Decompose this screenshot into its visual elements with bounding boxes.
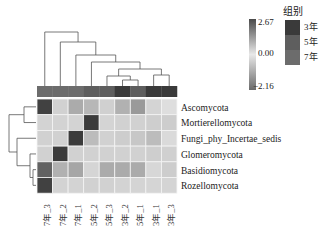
heatmap-cell bbox=[146, 162, 162, 178]
annotation-cell bbox=[146, 86, 162, 97]
heatmap-cell bbox=[68, 115, 84, 131]
heatmap-svg bbox=[0, 0, 322, 233]
dendrogram-branch bbox=[9, 115, 24, 152]
heatmap-chart bbox=[0, 0, 322, 233]
heatmap-cell bbox=[130, 115, 146, 131]
heatmap-cell bbox=[99, 146, 115, 162]
heatmap-cell bbox=[37, 130, 53, 146]
annotation-cell bbox=[53, 86, 69, 97]
heatmap-cell bbox=[84, 130, 100, 146]
heatmap-cell bbox=[68, 162, 84, 178]
legend-item-3yr: 3年 bbox=[304, 20, 318, 33]
heatmap-cell bbox=[68, 178, 84, 194]
col-label: 5年_2 bbox=[87, 204, 99, 226]
heatmap-cell bbox=[161, 178, 177, 194]
heatmap-cell bbox=[130, 146, 146, 162]
heatmap-cell bbox=[37, 99, 53, 115]
heatmap-cell bbox=[53, 162, 69, 178]
legend-swatch bbox=[285, 50, 300, 65]
heatmap-cell bbox=[99, 162, 115, 178]
heatmap-cell bbox=[99, 99, 115, 115]
heatmap-cell bbox=[53, 115, 69, 131]
heatmap-cell bbox=[53, 146, 69, 162]
colorscale-min: −2.16 bbox=[253, 81, 274, 91]
dendrogram-branch bbox=[45, 32, 78, 86]
annotation-cell bbox=[84, 86, 100, 97]
heatmap-cell bbox=[161, 146, 177, 162]
col-label: 5年_3 bbox=[102, 204, 114, 226]
heatmap-cell bbox=[99, 115, 115, 131]
row-label: Ascomycota bbox=[181, 102, 229, 114]
annotation-cell bbox=[68, 86, 84, 97]
legend-item-5yr: 5年 bbox=[304, 35, 318, 48]
heatmap-cell bbox=[146, 115, 162, 131]
col-label: 5年_1 bbox=[133, 204, 145, 226]
dendrogram-branch bbox=[33, 170, 36, 186]
heatmap-cell bbox=[68, 146, 84, 162]
dendrogram-branch bbox=[107, 76, 130, 86]
heatmap-cell bbox=[146, 130, 162, 146]
col-label: 7年_3 bbox=[40, 204, 52, 226]
heatmap-cell bbox=[130, 130, 146, 146]
annotation-cell bbox=[115, 86, 131, 97]
annotation-cell bbox=[37, 86, 53, 97]
heatmap-cell bbox=[161, 115, 177, 131]
heatmap-cell bbox=[68, 99, 84, 115]
row-label: Fungi_phy_Incertae_sedis bbox=[181, 133, 281, 145]
col-label: 7年_2 bbox=[56, 204, 68, 226]
annotation-cell bbox=[99, 86, 115, 97]
heatmap-cell bbox=[115, 162, 131, 178]
heatmap-cell bbox=[115, 146, 131, 162]
legend-title: 组别 bbox=[283, 3, 303, 18]
dendrogram-branch bbox=[154, 75, 170, 86]
heatmap-cell bbox=[146, 99, 162, 115]
dendrogram-branch bbox=[17, 138, 36, 165]
heatmap-cell bbox=[53, 99, 69, 115]
legend-item-7yr: 7年 bbox=[304, 50, 318, 63]
heatmap-cell bbox=[146, 146, 162, 162]
heatmap-cell bbox=[99, 178, 115, 194]
heatmap-cell bbox=[161, 162, 177, 178]
dendrogram-branch bbox=[76, 55, 116, 86]
col-label: 3年_3 bbox=[164, 204, 176, 226]
heatmap-cell bbox=[84, 146, 100, 162]
annotation-cell bbox=[130, 86, 146, 97]
heatmap-cell bbox=[37, 115, 53, 131]
heatmap-cell bbox=[115, 99, 131, 115]
heatmap-cell bbox=[130, 162, 146, 178]
heatmap-cell bbox=[130, 99, 146, 115]
heatmap-cell bbox=[84, 178, 100, 194]
row-label: Rozellomycota bbox=[181, 180, 239, 192]
heatmap-cell bbox=[84, 162, 100, 178]
heatmap-cell bbox=[53, 178, 69, 194]
dendrogram-branch bbox=[60, 42, 95, 86]
heatmap-cell bbox=[146, 178, 162, 194]
heatmap-cell bbox=[68, 130, 84, 146]
dendrogram-branch bbox=[123, 80, 139, 86]
row-label: Mortierellomycota bbox=[181, 117, 252, 129]
legend-swatch bbox=[285, 20, 300, 35]
heatmap-cell bbox=[115, 178, 131, 194]
heatmap-cell bbox=[84, 99, 100, 115]
dendrogram-branch bbox=[91, 62, 140, 86]
col-label: 3年_2 bbox=[118, 204, 130, 226]
colorscale-bar bbox=[249, 19, 256, 90]
heatmap-cell bbox=[161, 99, 177, 115]
col-label: 3年_1 bbox=[149, 204, 161, 226]
heatmap-cell bbox=[161, 130, 177, 146]
colorscale-max: 2.67 bbox=[258, 17, 274, 27]
heatmap-cell bbox=[130, 178, 146, 194]
heatmap-cell bbox=[84, 115, 100, 131]
row-label: Basidiomycota bbox=[181, 165, 238, 177]
col-label: 7年_1 bbox=[71, 204, 83, 226]
heatmap-cell bbox=[115, 115, 131, 131]
dendrogram-branch bbox=[24, 107, 36, 123]
heatmap-cell bbox=[37, 178, 53, 194]
heatmap-cell bbox=[115, 130, 131, 146]
annotation-cell bbox=[161, 86, 177, 97]
heatmap-cell bbox=[37, 162, 53, 178]
heatmap-cell bbox=[37, 146, 53, 162]
row-label: Glomeromycota bbox=[181, 149, 243, 161]
legend-swatch bbox=[285, 35, 300, 50]
heatmap-cell bbox=[99, 130, 115, 146]
